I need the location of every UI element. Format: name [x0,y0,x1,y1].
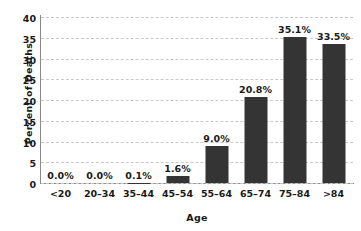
bar[interactable] [322,44,345,183]
x-axis-tick-label: >84 [323,188,344,199]
x-axis-tick-label: 45–54 [162,188,193,199]
bar-group[interactable]: 35.1% [275,17,314,183]
y-axis-tick-label: 25 [23,75,36,86]
bar-group[interactable]: 0.0% [80,17,119,183]
x-axis-tick-label: 55–64 [201,188,232,199]
x-axis-tick-label: <20 [50,188,71,199]
bar-group[interactable]: 0.1% [119,17,158,183]
x-axis-title: Age [41,212,353,223]
bar-value-label: 35.1% [278,24,311,35]
y-axis-tick-label: 0 [29,179,36,190]
bar-group[interactable]: 9.0% [197,17,236,183]
x-axis-tick-label: 65–74 [240,188,271,199]
bar-chart: Percent of Deaths 0510152025303540 0.0%0… [0,0,361,231]
bar-group[interactable]: 20.8% [236,17,275,183]
bar-value-label: 1.6% [164,163,190,174]
y-axis-tick-label: 10 [23,137,36,148]
y-axis-tick-label: 30 [23,54,36,65]
bar[interactable] [244,97,267,183]
gridline: 0 [41,183,353,184]
bar-group[interactable]: 1.6% [158,17,197,183]
x-axis-tick-label: 75–84 [279,188,310,199]
bar[interactable] [166,176,189,183]
y-axis-tick-label: 35 [23,33,36,44]
y-axis-tick-label: 5 [29,158,36,169]
bar-group[interactable]: 33.5% [314,17,353,183]
x-axis-tick-label: 35–44 [123,188,154,199]
bar-value-label: 9.0% [203,133,229,144]
bar[interactable] [283,37,306,183]
x-axis-tick-label: 20–34 [84,188,115,199]
y-axis-tick-label: 15 [23,116,36,127]
y-axis-tick-label: 40 [23,13,36,24]
x-axis-tick-labels: <2020–3435–4445–5455–6465–7475–84>84 [41,188,353,206]
bar-value-label: 33.5% [317,31,350,42]
bar-value-label: 0.1% [125,170,151,181]
bar[interactable] [205,146,228,183]
plot-area: 0510152025303540 0.0%0.0%0.1%1.6%9.0%20.… [41,17,353,183]
bar-value-label: 0.0% [47,170,73,181]
bar-group[interactable]: 0.0% [41,17,80,183]
y-axis-tick-label: 20 [23,96,36,107]
bar-value-label: 0.0% [86,170,112,181]
bars-layer: 0.0%0.0%0.1%1.6%9.0%20.8%35.1%33.5% [41,17,353,183]
bar-value-label: 20.8% [239,84,272,95]
